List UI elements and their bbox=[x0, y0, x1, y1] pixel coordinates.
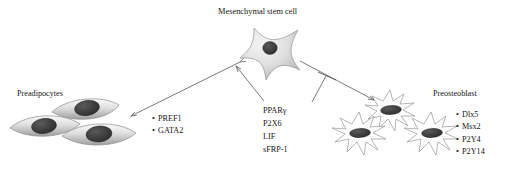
connector-inhibition-t-bar bbox=[312, 72, 336, 102]
list-item: •P2Y14 bbox=[456, 146, 485, 158]
list-item: LIF bbox=[263, 130, 288, 143]
connector-factors-to-msc bbox=[236, 66, 264, 101]
page-title: Mesenchymal stem cell bbox=[218, 8, 297, 17]
marker-label: P2Y4 bbox=[462, 135, 481, 144]
list-item: •Msx2 bbox=[456, 121, 485, 133]
list-item: P2X6 bbox=[263, 117, 288, 130]
preadipocyte-cells-graphic bbox=[10, 99, 136, 146]
label-preosteoblast: Preosteoblast bbox=[433, 90, 477, 99]
marker-label: Msx2 bbox=[462, 122, 481, 131]
connector-msc-to-preadipocyte bbox=[131, 62, 240, 116]
nucleus bbox=[263, 42, 277, 55]
label-preadipocytes: Preadipocytes bbox=[17, 90, 63, 99]
marker-label: PREF1 bbox=[158, 114, 182, 123]
connector-msc-to-preosteoblast bbox=[300, 61, 374, 100]
list-item: PPARγ bbox=[263, 104, 288, 117]
figure-root: Mesenchymal stem cell Preadipocytes Preo… bbox=[0, 0, 508, 180]
list-item: sFRP-1 bbox=[263, 143, 288, 156]
list-item: •GATA2 bbox=[152, 125, 183, 137]
list-item: •P2Y4 bbox=[456, 134, 485, 146]
marker-label: GATA2 bbox=[158, 126, 183, 135]
preosteoblast-cells-graphic bbox=[332, 90, 458, 155]
factor-list-center: PPARγ P2X6 LIF sFRP-1 bbox=[263, 104, 288, 156]
list-item: •Dlx5 bbox=[456, 109, 485, 121]
marker-list-preosteoblast: •Dlx5 •Msx2 •P2Y4 •P2Y14 bbox=[456, 109, 485, 159]
marker-list-preadipocyte: •PREF1 •GATA2 bbox=[152, 113, 183, 138]
marker-label: Dlx5 bbox=[462, 110, 478, 119]
marker-label: P2Y14 bbox=[462, 147, 485, 156]
diagram-canvas bbox=[0, 0, 508, 180]
mesenchymal-stem-cell-graphic bbox=[240, 28, 300, 80]
list-item: •PREF1 bbox=[152, 113, 183, 125]
t-bar-cap bbox=[318, 72, 336, 80]
